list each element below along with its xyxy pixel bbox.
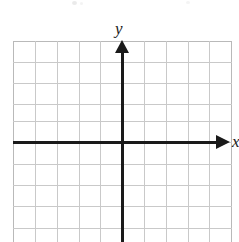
scan-artifact: [72, 1, 77, 5]
y-axis-label: y: [115, 20, 123, 37]
y-axis-arrow-icon: [115, 40, 129, 53]
x-axis-line: [13, 141, 218, 144]
y-axis-line: [121, 48, 124, 242]
x-axis-arrow-icon: [216, 135, 230, 149]
x-axis-label: x: [232, 133, 239, 150]
scan-artifact: [186, 1, 190, 4]
scan-artifact: [80, 2, 83, 5]
coordinate-plane-figure: y x: [0, 0, 239, 242]
